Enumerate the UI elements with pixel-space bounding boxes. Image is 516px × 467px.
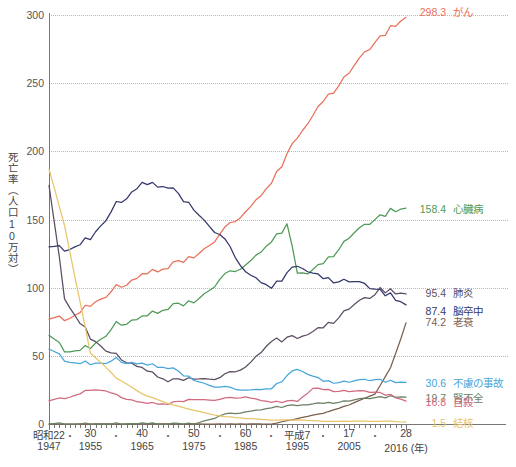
series-value: 74.2 <box>412 315 446 327</box>
series-line-7 <box>49 388 406 404</box>
series-label-1: 158.4心臓病 <box>412 201 483 216</box>
series-value: 298.3 <box>412 6 446 18</box>
series-line-0 <box>49 17 406 320</box>
series-line-6 <box>49 396 406 424</box>
series-name: 老衰 <box>453 313 473 328</box>
series-value: 30.6 <box>412 377 446 389</box>
series-name: 肺炎 <box>453 284 473 299</box>
series-line-5 <box>49 349 406 390</box>
series-line-2 <box>49 185 406 381</box>
series-name: がん <box>453 4 473 19</box>
series-value: 95.4 <box>412 286 446 298</box>
series-label-7: 16.8自殺 <box>412 394 473 409</box>
series-name: 不慮の事故 <box>453 375 503 390</box>
series-name: 結核 <box>453 414 473 429</box>
series-name: 心臓病 <box>453 201 483 216</box>
series-label-8: 1.5結核 <box>412 414 473 429</box>
series-line-8 <box>49 169 406 422</box>
series-value: 158.4 <box>412 203 446 215</box>
chart-container: 死亡率（人口10万対） 050100150200250300 昭和2219473… <box>0 0 516 467</box>
series-label-2: 95.4肺炎 <box>412 284 473 299</box>
series-name: 自殺 <box>453 394 473 409</box>
series-value: 1.5 <box>412 416 446 428</box>
series-label-4: 74.2老衰 <box>412 313 473 328</box>
series-line-3 <box>49 182 406 304</box>
series-label-5: 30.6不慮の事故 <box>412 375 503 390</box>
series-value: 16.8 <box>412 396 446 408</box>
series-label-0: 298.3がん <box>412 4 473 19</box>
series-line-1 <box>49 208 406 352</box>
